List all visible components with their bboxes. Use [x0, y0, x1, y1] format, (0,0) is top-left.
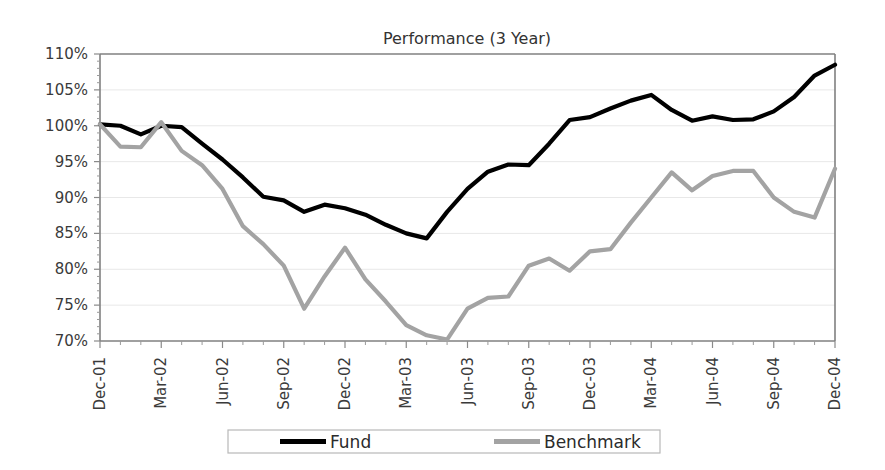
x-axis-tick-label: Sep-03: [520, 357, 538, 410]
chart-title: Performance (3 Year): [383, 29, 551, 48]
y-axis-tick-label: 70%: [55, 332, 88, 350]
x-axis-tick-label: Dec-03: [581, 357, 599, 411]
x-axis-tick-label: Jun-02: [214, 357, 232, 406]
x-axis-tick-label: Mar-03: [397, 357, 415, 409]
x-axis-tick-label: Dec-01: [91, 357, 109, 411]
x-axis-tick-label: Mar-04: [642, 357, 660, 409]
x-axis-tick-label: Dec-02: [336, 357, 354, 411]
y-axis-tick-label: 75%: [55, 296, 88, 314]
y-axis-labels: 110%105%100%95%90%85%80%75%70%: [45, 45, 88, 350]
performance-chart: 110%105%100%95%90%85%80%75%70% Dec-01Mar…: [0, 0, 885, 470]
y-axis-tick-label: 100%: [45, 117, 88, 135]
x-axis-ticks: [100, 341, 835, 348]
y-axis-tick-label: 95%: [55, 153, 88, 171]
x-axis-labels: Dec-01Mar-02Jun-02Sep-02Dec-02Mar-03Jun-…: [91, 357, 844, 411]
x-axis-tick-label: Sep-02: [275, 357, 293, 410]
y-axis-tick-label: 110%: [45, 45, 88, 63]
y-axis-tick-label: 90%: [55, 189, 88, 207]
chart-legend: FundBenchmark: [228, 430, 660, 453]
x-axis-tick-label: Jun-04: [704, 357, 722, 406]
x-axis-tick-label: Mar-02: [152, 357, 170, 409]
x-axis-tick-label: Sep-04: [765, 357, 783, 410]
x-axis-tick-label: Jun-03: [459, 357, 477, 406]
y-axis-tick-label: 85%: [55, 224, 88, 242]
x-axis-tick-label: Dec-04: [826, 357, 844, 411]
legend-label-fund: Fund: [330, 432, 371, 452]
y-axis-ticks: [94, 54, 100, 341]
y-axis-tick-label: 80%: [55, 260, 88, 278]
y-axis-tick-label: 105%: [45, 81, 88, 99]
chart-canvas: 110%105%100%95%90%85%80%75%70% Dec-01Mar…: [0, 0, 885, 470]
legend-label-benchmark: Benchmark: [544, 432, 641, 452]
